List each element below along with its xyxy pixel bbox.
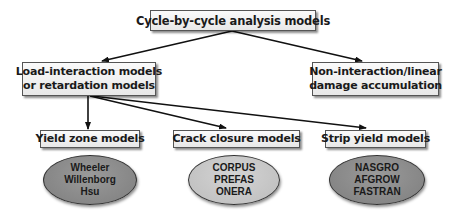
example-onera: ONERA: [216, 186, 252, 198]
model-hierarchy-diagram: Cycle-by-cycle analysis models Load-inte…: [0, 0, 455, 215]
yield-zone-node-box: Yield zone models: [40, 130, 140, 148]
strip-yield-label: Strip yield models: [321, 132, 430, 146]
arrow-load-to-strip-yield: [92, 96, 366, 128]
crack-closure-examples-ellipse: CORPUS PREFAS ONERA: [188, 155, 280, 205]
crack-closure-label: Crack closure models: [172, 132, 300, 146]
example-fastran: FASTRAN: [353, 186, 400, 198]
load-interaction-label-line1: Load-interaction models: [16, 65, 162, 79]
example-willenborg: Willenborg: [64, 174, 116, 186]
example-corpus: CORPUS: [213, 162, 256, 174]
strip-yield-examples-ellipse: NASGRO AFGROW FASTRAN: [329, 155, 425, 205]
arrow-root-to-load-interaction: [102, 31, 232, 61]
non-interaction-node-box: Non-interaction/linear damage accumulati…: [312, 62, 439, 96]
example-wheeler: Wheeler: [71, 162, 110, 174]
example-prefas: PREFAS: [214, 174, 254, 186]
arrow-root-to-non-interaction: [232, 31, 362, 61]
crack-closure-node-box: Crack closure models: [173, 130, 300, 148]
example-afgrow: AFGROW: [354, 174, 400, 186]
load-interaction-label-line2: or retardation models: [23, 79, 155, 93]
arrow-load-to-crack-closure: [90, 96, 226, 128]
example-nasgro: NASGRO: [355, 162, 399, 174]
non-interaction-label-line2: damage accumulation: [309, 79, 442, 93]
strip-yield-node-box: Strip yield models: [325, 130, 426, 148]
root-node-label: Cycle-by-cycle analysis models: [136, 14, 330, 28]
load-interaction-node-box: Load-interaction models or retardation m…: [22, 62, 156, 96]
yield-zone-examples-ellipse: Wheeler Willenborg Hsu: [43, 155, 137, 205]
non-interaction-label-line1: Non-interaction/linear: [309, 65, 442, 79]
example-hsu: Hsu: [81, 186, 100, 198]
yield-zone-label: Yield zone models: [35, 132, 144, 146]
root-node-box: Cycle-by-cycle analysis models: [150, 10, 316, 31]
